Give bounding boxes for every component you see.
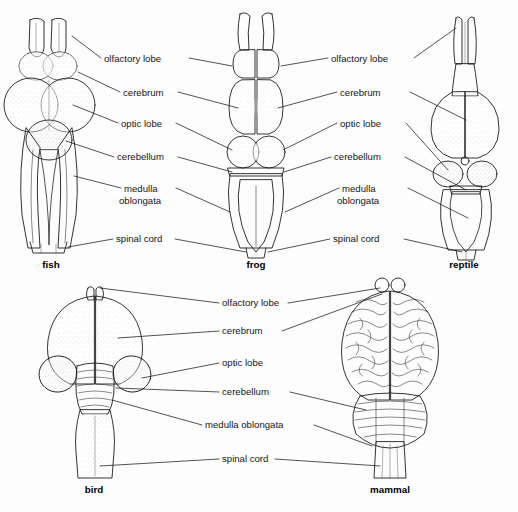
caption-frog: frog	[246, 259, 265, 270]
caption-bird: bird	[85, 484, 104, 495]
label-medulla-line1-reptile: medulla	[342, 183, 376, 194]
label-olfactory-lobe-reptile: olfactory lobe	[331, 53, 388, 64]
label-optic-lobe-reptile: optic lobe	[340, 118, 381, 129]
label-olfactory-lobe-bottom: olfactory lobe	[222, 297, 279, 308]
label-medulla-line2-reptile: oblongata	[337, 195, 380, 206]
label-optic-lobe-fish: optic lobe	[121, 118, 162, 129]
label-medulla-line1-fish: medulla	[124, 183, 158, 194]
label-cerebrum-reptile: cerebrum	[340, 87, 381, 98]
label-spinal-cord-fish: spinal cord	[116, 233, 162, 244]
caption-reptile: reptile	[449, 259, 479, 270]
figure-background	[0, 0, 518, 512]
label-spinal-cord-bottom: spinal cord	[222, 453, 268, 464]
label-cerebellum-reptile: cerebellum	[334, 151, 381, 162]
label-cerebellum-bottom: cerebellum	[222, 386, 269, 397]
comparative-brain-anatomy-figure: fish frog	[0, 0, 518, 512]
label-medulla-oblongata-bottom: medulla oblongata	[205, 419, 284, 430]
label-optic-lobe-bottom: optic lobe	[222, 357, 263, 368]
label-cerebrum-bottom: cerebrum	[222, 325, 263, 336]
label-spinal-cord-reptile: spinal cord	[333, 233, 379, 244]
label-cerebrum-fish: cerebrum	[123, 87, 164, 98]
caption-fish: fish	[42, 259, 59, 270]
label-medulla-line2-fish: oblongata	[119, 195, 162, 206]
caption-mammal: mammal	[370, 484, 410, 495]
label-olfactory-lobe-fish: olfactory lobe	[104, 53, 161, 64]
label-cerebellum-fish: cerebellum	[117, 151, 164, 162]
